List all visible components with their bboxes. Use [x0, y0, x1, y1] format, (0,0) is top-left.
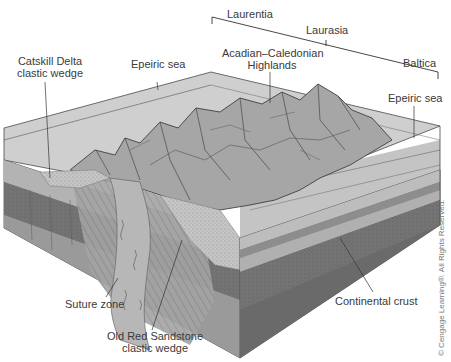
copyright-notice: © Cengage Learning®. All Rights Reserved…	[437, 200, 446, 356]
label-epeiric-sea-left: Epeiric sea	[131, 58, 185, 70]
label-baltica: Baltica	[403, 57, 436, 69]
label-laurentia: Laurentia	[227, 8, 273, 20]
diagram-canvas: Laurentia Laurasia Baltica Catskill Delt…	[0, 0, 451, 362]
label-catskill-line2: clastic wedge	[10, 67, 90, 79]
label-highlands-line2: Highlands	[222, 59, 322, 71]
label-catskill-line1: Catskill Delta	[10, 55, 90, 67]
label-epeiric-sea-right: Epeiric sea	[388, 92, 442, 104]
label-old-red-sandstone: Old Red Sandstone clastic wedge	[100, 330, 210, 354]
label-highlands: Acadian–Caledonian Highlands	[222, 47, 322, 71]
label-continental-crust: Continental crust	[335, 295, 418, 307]
label-catskill-delta: Catskill Delta clastic wedge	[10, 55, 90, 79]
label-old-red-line1: Old Red Sandstone	[100, 330, 210, 342]
label-highlands-line1: Acadian–Caledonian	[222, 47, 322, 59]
label-laurasia: Laurasia	[306, 24, 348, 36]
label-old-red-line2: clastic wedge	[100, 342, 210, 354]
label-suture-zone: Suture zone	[65, 298, 124, 310]
